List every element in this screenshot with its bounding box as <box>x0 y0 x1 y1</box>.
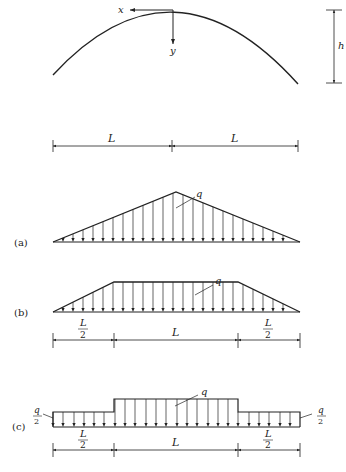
dim-half-right-den: 2 <box>265 440 271 450</box>
height-dimension: h <box>326 10 346 83</box>
arch-load-diagram: x y h L L (a) q <box>0 0 346 472</box>
load-label-q: q <box>201 386 207 397</box>
case-b-label: (b) <box>14 307 28 318</box>
dim-half-left-den: 2 <box>80 330 86 340</box>
load-label-q: q <box>196 188 202 199</box>
load-label-q: q <box>215 275 221 286</box>
case-c-stepped-load: (c) q q 2 q 2 L 2 L L <box>12 386 326 457</box>
load-arrows <box>61 282 284 312</box>
load-arrows <box>61 193 284 242</box>
y-axis-label: y <box>169 45 176 56</box>
dim-half-right-num: L <box>264 317 272 328</box>
span-label-left: L <box>107 132 115 145</box>
side-load-right-num: q <box>318 405 324 415</box>
case-c-label: (c) <box>12 421 26 432</box>
dim-half-left-den: 2 <box>80 440 86 450</box>
case-a-label: (a) <box>14 237 28 248</box>
load-arrows <box>51 399 291 427</box>
dim-half-right-den: 2 <box>265 330 271 340</box>
case-b-trapezoidal-load: (b) q L 2 L L 2 <box>14 275 300 348</box>
arch-figure: x y h L L <box>53 4 346 152</box>
x-axis-label: x <box>118 4 124 15</box>
span-label-right: L <box>230 132 238 145</box>
dim-half-left-num: L <box>79 317 87 328</box>
dim-half-right-num: L <box>264 428 272 439</box>
dim-half-left-num: L <box>79 428 87 439</box>
case-b-dimensions: L 2 L L 2 <box>53 317 300 348</box>
side-load-left-den: 2 <box>34 417 39 426</box>
side-load-left-num: q <box>34 405 40 415</box>
dim-center: L <box>171 326 179 339</box>
height-label: h <box>338 40 344 51</box>
side-load-right-den: 2 <box>318 417 323 426</box>
case-c-dimensions: L 2 L L 2 <box>53 428 300 457</box>
dim-center: L <box>171 436 179 449</box>
case-a-triangular-load: (a) q <box>14 188 300 248</box>
span-dimension: L L <box>53 132 298 152</box>
